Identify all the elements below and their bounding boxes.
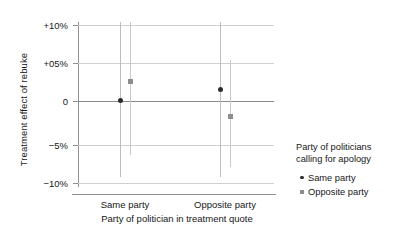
legend-title-line-2: calling for apology [296, 154, 400, 166]
legend: Party of politicians calling for apology… [296, 142, 400, 199]
data-point-opposite-same [218, 87, 223, 92]
gridline-05 [78, 63, 274, 64]
error-bar-same-opposite [130, 22, 131, 155]
legend-label-same-party: Same party [308, 173, 356, 183]
legend-item-same-party[interactable]: Same party [296, 171, 400, 184]
gridline-neg10 [78, 183, 274, 184]
legend-circle-marker-icon [296, 176, 308, 180]
data-point-same-opposite [128, 79, 133, 84]
data-point-opposite-opposite [228, 114, 233, 119]
y-axis-title: Treatment effect of rebuke [18, 20, 29, 200]
y-tick-label-0: 0 [22, 96, 68, 107]
y-tick-label-neg5: −5% [22, 140, 68, 151]
error-bar-opposite-same [220, 22, 221, 177]
legend-item-opposite-party[interactable]: Opposite party [296, 185, 400, 198]
plot-area [78, 22, 274, 187]
x-axis-line [72, 194, 276, 195]
legend-square-marker-icon [296, 190, 308, 194]
data-point-same-same [118, 98, 123, 103]
legend-label-opposite-party: Opposite party [308, 187, 368, 197]
gridline-neg5 [78, 145, 274, 146]
x-tick-label-opposite-party: Opposite party [165, 199, 285, 210]
x-axis-title: Party of politician in treatment quote [38, 213, 316, 224]
legend-title: Party of politicians calling for apology [296, 142, 400, 165]
gridline-zero [78, 101, 274, 102]
legend-title-line-1: Party of politicians [296, 142, 400, 154]
y-tick-label-05: +05% [22, 58, 68, 69]
y-tick-label-10: +10% [22, 20, 68, 31]
gridline-10 [78, 25, 274, 26]
y-tick-label-neg10: −10% [22, 178, 68, 189]
chart-figure: Treatment effect of rebuke +10% +05% 0 −… [0, 0, 400, 243]
